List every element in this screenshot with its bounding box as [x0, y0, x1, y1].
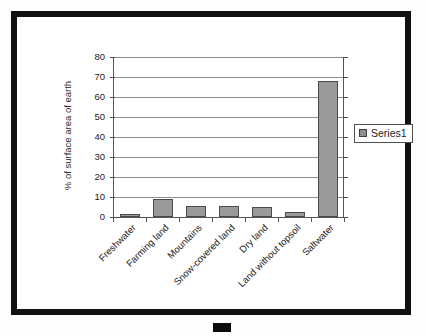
bar-saltwater: [318, 81, 338, 217]
y-tick-label-30: 30: [81, 152, 105, 162]
chart-canvas: % of surface area of earth 0102030405060…: [34, 34, 422, 326]
legend-swatch-series1: [359, 129, 367, 137]
y-tick-label-10: 10: [81, 192, 105, 202]
y-tick-label-80: 80: [81, 52, 105, 62]
y-tick-label-40: 40: [81, 132, 105, 142]
chart-outer-border: % of surface area of earth 0102030405060…: [11, 11, 411, 315]
bar-snow-covered-land: [219, 206, 239, 217]
y-tick-label-60: 60: [81, 92, 105, 102]
bar-mountains: [186, 206, 206, 217]
bar-series-layer: [113, 57, 344, 217]
y-tick-label-50: 50: [81, 112, 105, 122]
y-axis-title: % of surface area of earth: [62, 56, 73, 216]
y-tick-label-70: 70: [81, 72, 105, 82]
bar-farming-land: [153, 199, 173, 217]
border-notch-mark: [213, 323, 231, 332]
bar-dry-land: [252, 207, 272, 217]
chart-legend[interactable]: Series1: [354, 124, 413, 143]
legend-label-series1: Series1: [371, 128, 407, 139]
y-tick-label-20: 20: [81, 172, 105, 182]
x-axis-category-labels: FreshwaterFarming landMountainsSnow-cove…: [34, 220, 422, 324]
